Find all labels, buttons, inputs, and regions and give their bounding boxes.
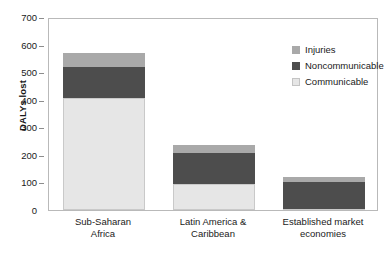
y-tick-label: 500 — [21, 68, 37, 78]
chart-legend: Injuries Noncommunicable Communicable — [292, 43, 384, 91]
bar-stack — [173, 17, 255, 210]
y-tick-label: 400 — [21, 96, 37, 106]
legend-item-noncommunicable: Noncommunicable — [292, 59, 384, 73]
y-tick-mark — [39, 18, 44, 19]
bar-segment-noncommunicable — [173, 153, 255, 184]
y-tick-label: 300 — [21, 123, 37, 133]
x-axis-label-line: Sub-Saharan — [48, 216, 158, 228]
y-tick-mark — [39, 73, 44, 74]
y-tick-mark — [39, 128, 44, 129]
legend-swatch-communicable — [292, 78, 300, 86]
chart-figure: DALYs lost 0100200300400500600700 Injuri… — [0, 0, 386, 257]
y-tick-mark — [39, 183, 44, 184]
legend-item-communicable: Communicable — [292, 75, 384, 89]
x-axis-label-line: Latin America & — [158, 216, 268, 228]
y-tick-label: 600 — [21, 41, 37, 51]
y-tick-label: 100 — [21, 178, 37, 188]
x-axis-label: Established marketeconomies — [268, 216, 378, 240]
legend-swatch-noncommunicable — [292, 62, 300, 70]
x-axis-label-line: Established market — [268, 216, 378, 228]
y-tick-mark — [39, 156, 44, 157]
bar-stack — [63, 17, 145, 210]
x-axis-label: Sub-SaharanAfrica — [48, 216, 158, 240]
bar-segment-injuries — [173, 145, 255, 153]
bar-segment-injuries — [283, 177, 365, 181]
legend-swatch-injuries — [292, 46, 300, 54]
y-tick-mark — [39, 46, 44, 47]
y-tick-label: 700 — [21, 13, 37, 23]
bar-segment-communicable — [63, 98, 145, 210]
x-axis-label: Latin America &Caribbean — [158, 216, 268, 240]
x-axis-label-line: economies — [268, 228, 378, 240]
bar-segment-communicable — [173, 184, 255, 210]
y-tick-label: 0 — [32, 206, 37, 216]
plot-area: Injuries Noncommunicable Communicable — [48, 18, 378, 211]
bar-segment-noncommunicable — [283, 182, 365, 209]
y-tick-label: 200 — [21, 151, 37, 161]
legend-item-injuries: Injuries — [292, 43, 384, 57]
bar-segment-noncommunicable — [63, 67, 145, 97]
bar-segment-injuries — [63, 53, 145, 67]
x-axis-label-line: Africa — [48, 228, 158, 240]
y-tick-mark — [39, 101, 44, 102]
legend-label-injuries: Injuries — [305, 45, 336, 55]
legend-label-noncommunicable: Noncommunicable — [305, 61, 384, 71]
x-axis-label-line: Caribbean — [158, 228, 268, 240]
legend-label-communicable: Communicable — [305, 77, 368, 87]
